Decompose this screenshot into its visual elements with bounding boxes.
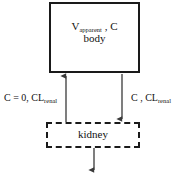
body-compartment-label: body <box>51 33 138 45</box>
inflow-clearance-subscript: renal <box>44 97 57 104</box>
concentration-symbol: C <box>110 20 117 32</box>
outflow-clearance-subscript: renal <box>158 97 171 104</box>
inflow-concentration-text: C = 0, <box>4 92 29 103</box>
outflow-clearance-symbol: CL <box>145 92 158 103</box>
outflow-concentration-text: C , <box>131 92 143 103</box>
compartment-diagram: Vapparent , C body kidney C = 0, CLrenal… <box>0 0 183 176</box>
volume-concentration-label: Vapparent , C <box>51 21 138 33</box>
body-compartment-box: Vapparent , C body <box>49 2 140 73</box>
kidney-compartment-box: kidney <box>46 122 140 148</box>
outflow-right-label: C , CLrenal <box>131 92 171 103</box>
label-separator: , <box>102 20 110 32</box>
inflow-left-label: C = 0, CLrenal <box>4 92 57 103</box>
kidney-compartment-label: kidney <box>48 128 138 140</box>
body-compartment-labels: Vapparent , C body <box>51 21 138 44</box>
volume-subscript: apparent <box>79 26 101 33</box>
inflow-clearance-symbol: CL <box>31 92 44 103</box>
